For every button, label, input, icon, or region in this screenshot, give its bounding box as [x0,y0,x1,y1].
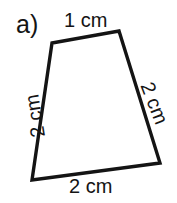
side-label-top: 1 cm [64,10,107,30]
trapezoid-shape [32,31,160,180]
part-label: a) [16,12,38,37]
side-label-bottom: 2 cm [69,176,112,196]
geometry-figure: a) 1 cm 2 cm 2 cm 2 cm [0,0,177,203]
